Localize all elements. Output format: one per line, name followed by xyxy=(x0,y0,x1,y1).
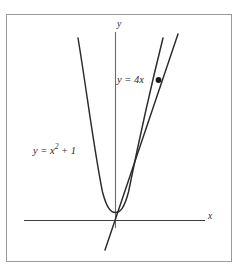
intersection-point-marker xyxy=(156,77,162,83)
parabola-equation-rhs: + 1 xyxy=(58,145,76,156)
line-equation-label: y = 4x xyxy=(117,75,144,86)
figure-root: y = x2 + 1 y = 4x y x xyxy=(0,0,237,275)
graph-plot-area xyxy=(0,0,237,275)
curve-parabola xyxy=(78,38,163,213)
parabola-equation-label: y = x2 + 1 xyxy=(33,143,76,156)
y-axis-label: y xyxy=(117,20,121,30)
parabola-equation-lhs: y = x xyxy=(33,145,55,156)
x-axis-label: x xyxy=(208,212,212,222)
